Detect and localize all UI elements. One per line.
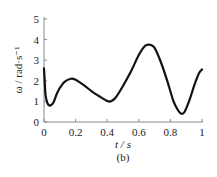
x-tick-label: 0.4 (100, 126, 114, 138)
figure-caption: (b) (117, 151, 130, 164)
x-axis-label: t / s (115, 138, 131, 150)
x-tick-label: 0 (41, 126, 47, 138)
y-tick-label: 2 (34, 75, 40, 87)
line-chart: 012345 00.20.40.60.81 ω / rad·s⁻¹ t / s … (0, 0, 217, 177)
y-tick-label: 4 (34, 34, 40, 46)
x-tick-label: 0.8 (164, 126, 178, 138)
x-tick-label: 0.6 (132, 126, 146, 138)
y-axis-label: ω / rad·s⁻¹ (12, 46, 24, 93)
x-tick-label: 0.2 (69, 126, 83, 138)
y-tick-label: 3 (34, 54, 40, 66)
y-tick-label: 1 (34, 95, 40, 107)
y-tick-label: 0 (34, 116, 40, 128)
axes: 012345 00.20.40.60.81 (34, 13, 205, 138)
omega-series-line (44, 44, 202, 113)
x-tick-label: 1 (199, 126, 205, 138)
y-tick-label: 5 (34, 13, 40, 25)
